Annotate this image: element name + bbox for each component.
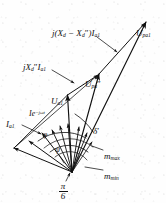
label-reactance-difference: j(Xd − Xd″)Ia1 [52, 29, 100, 39]
label-m-max: mmax [104, 152, 120, 162]
leader-subtransient-drop [52, 70, 74, 83]
label-power-factor-angle: φ [43, 131, 47, 139]
label-armature-current: Ia1 [6, 120, 15, 130]
label-inner-angle: ψ [55, 146, 60, 154]
vector-emf-pa1 [72, 22, 146, 172]
leader-pi-over-six [66, 173, 70, 181]
label-emf-pa-subtransient: Upa″ [85, 80, 101, 90]
label-subtransient-reactance-drop: jXd″Ia1 [23, 63, 46, 73]
label-m-min: mmin [104, 172, 119, 182]
leader-m-min [85, 167, 103, 170]
label-terminal-voltage: Ua1 [51, 97, 63, 107]
phasor-diagram-figure: j(Xd − Xd″)Ia1 jXd″Ia1 Upa1 Upa″ Ua1 Ie−… [0, 0, 166, 203]
leader-m-max [92, 146, 103, 150]
angle-tick-left [59, 155, 64, 163]
label-pi-over-six: π 6 [55, 182, 71, 201]
label-emf-pa1: Upa1 [136, 29, 151, 39]
leader-reactance-difference [97, 37, 117, 52]
label-current-exponential: Ie−jωt [29, 110, 45, 118]
label-load-angle: δ′ [93, 127, 99, 136]
